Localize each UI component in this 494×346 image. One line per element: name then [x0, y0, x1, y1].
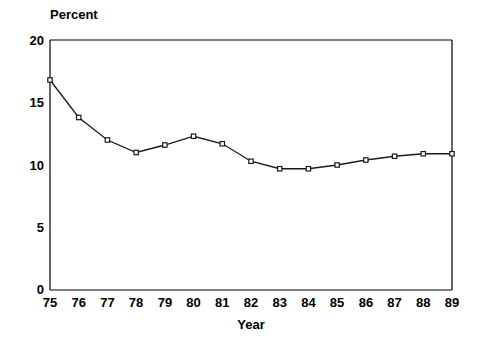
- data-point-86: [364, 158, 368, 162]
- line-chart: 20 15 10 5 0 757677787980818283848586878…: [0, 0, 494, 346]
- x-tick-label-89: 89: [445, 295, 459, 310]
- x-tick-label-82: 82: [244, 295, 258, 310]
- data-point-75: [48, 78, 52, 82]
- data-point-89: [450, 152, 454, 156]
- x-tick-label-87: 87: [387, 295, 401, 310]
- data-point-80: [191, 134, 195, 138]
- data-point-78: [134, 150, 138, 154]
- y-tick-label-5: 5: [37, 220, 44, 235]
- x-tick-label-85: 85: [330, 295, 344, 310]
- x-tick-label-80: 80: [186, 295, 200, 310]
- x-tick-label-86: 86: [359, 295, 373, 310]
- data-point-81: [220, 142, 224, 146]
- chart-figure: 20 15 10 5 0 757677787980818283848586878…: [0, 0, 494, 346]
- x-tick-label-75: 75: [43, 295, 57, 310]
- x-tick-label-81: 81: [215, 295, 229, 310]
- y-tick-label-10: 10: [30, 158, 44, 173]
- x-axis-tick-labels: 757677787980818283848586878889: [43, 295, 459, 310]
- data-point-85: [335, 163, 339, 167]
- data-point-79: [163, 143, 167, 147]
- data-point-83: [278, 167, 282, 171]
- x-tick-label-88: 88: [416, 295, 430, 310]
- y-tick-label-15: 15: [30, 95, 44, 110]
- x-tick-label-84: 84: [301, 295, 316, 310]
- data-point-76: [77, 115, 81, 119]
- x-axis-title: Year: [237, 317, 264, 332]
- x-tick-label-77: 77: [100, 295, 114, 310]
- y-axis-title: Percent: [50, 7, 98, 22]
- data-point-82: [249, 159, 253, 163]
- x-tick-label-83: 83: [272, 295, 286, 310]
- data-point-84: [306, 167, 310, 171]
- y-tick-label-20: 20: [30, 33, 44, 48]
- data-point-77: [105, 138, 109, 142]
- data-point-87: [392, 154, 396, 158]
- x-tick-label-79: 79: [158, 295, 172, 310]
- data-point-88: [421, 152, 425, 156]
- x-tick-label-78: 78: [129, 295, 143, 310]
- x-tick-label-76: 76: [71, 295, 85, 310]
